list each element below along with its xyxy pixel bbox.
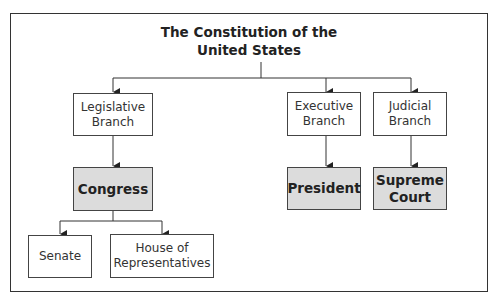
judicial-branch-box: JudicialBranch bbox=[373, 92, 447, 136]
label-line: Supreme bbox=[376, 172, 444, 189]
label-line: Representatives bbox=[114, 256, 211, 271]
label-line: President bbox=[287, 180, 360, 197]
label-line: Branch bbox=[295, 114, 353, 129]
label-line: Legislative bbox=[81, 100, 145, 115]
label-line: Branch bbox=[389, 114, 432, 129]
supreme-court-box: SupremeCourt bbox=[373, 167, 447, 210]
president-box: President bbox=[287, 167, 361, 210]
label-line: Court bbox=[376, 189, 444, 206]
house-of-representatives-box: House ofRepresentatives bbox=[110, 234, 214, 278]
label-line: Judicial bbox=[389, 99, 432, 114]
congress-box: Congress bbox=[73, 167, 153, 211]
senate-box: Senate bbox=[28, 235, 92, 278]
label-line: Executive bbox=[295, 99, 353, 114]
label-line: Senate bbox=[39, 249, 81, 264]
label-line: Congress bbox=[78, 181, 148, 198]
executive-branch-box: ExecutiveBranch bbox=[287, 92, 361, 136]
label-line: House of bbox=[114, 241, 211, 256]
label-line: Branch bbox=[81, 115, 145, 130]
legislative-branch-box: LegislativeBranch bbox=[73, 93, 153, 136]
